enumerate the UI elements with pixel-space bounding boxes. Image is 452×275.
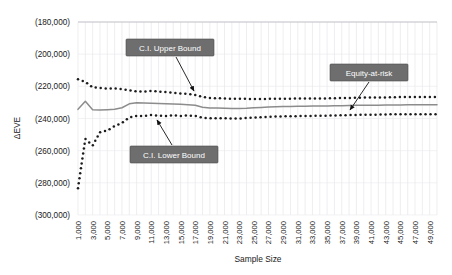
series-dot (314, 115, 317, 118)
y-axis-title: ΔEVE (12, 116, 22, 139)
x-tick-label: 21,000 (221, 221, 230, 244)
series-dot (349, 97, 352, 100)
series-dot (324, 97, 327, 100)
series-dot (204, 96, 207, 99)
series-dot (234, 97, 237, 100)
series-dot (254, 98, 256, 101)
series-dot (79, 172, 82, 175)
series-dot (249, 98, 252, 101)
series-dot (108, 128, 111, 131)
series-dot (334, 114, 337, 117)
x-tick-label: 13,000 (162, 221, 171, 244)
x-tick-label: 23,000 (235, 221, 244, 244)
series-dot (174, 92, 177, 95)
x-tick-label: 1,000 (74, 221, 83, 240)
series-dot (239, 97, 242, 100)
series-dot (114, 87, 117, 90)
series-dot (104, 87, 107, 90)
series-dot (384, 96, 387, 99)
series-dot (364, 96, 367, 99)
series-dot (80, 167, 83, 170)
series-dot (164, 91, 167, 94)
series-dot (304, 97, 307, 100)
series-dot (78, 177, 81, 180)
series-dot (90, 85, 93, 88)
series-dot (284, 97, 287, 100)
series-dot (339, 114, 342, 117)
x-tick-label: 29,000 (279, 221, 288, 244)
leader-line-lower (157, 120, 172, 145)
series-dot (88, 141, 91, 144)
y-tick-label: (280,000) (35, 179, 70, 188)
series-dot (389, 113, 392, 116)
series-dot (175, 114, 178, 117)
chart-figure: (180,000)(200,000)(220,000)(240,000)(260… (0, 0, 452, 275)
annotation-callouts: C.I. Upper Bound Equity-at-risk C.I. Low… (126, 39, 408, 163)
series-dot (130, 116, 133, 119)
leader-line-upper (176, 57, 194, 91)
series-dot (344, 97, 347, 100)
series-dot (99, 131, 102, 134)
series-dot (199, 116, 202, 119)
series-dot (190, 114, 193, 117)
series-dot (160, 115, 163, 118)
series-dot (81, 157, 84, 160)
series-dot (259, 98, 262, 101)
x-axis-title: Sample Size (234, 254, 281, 264)
series-dot (86, 82, 89, 85)
series-dot (194, 94, 197, 97)
series-dot (264, 98, 267, 101)
series-dot (414, 113, 417, 116)
series-dot (99, 87, 102, 90)
series-dot (409, 96, 412, 99)
series-dot (319, 97, 322, 100)
series-dot (374, 96, 377, 99)
series-dot (77, 78, 80, 81)
y-tick-label: (180,000) (35, 18, 70, 27)
series-dot (284, 115, 287, 118)
x-tick-label: 17,000 (191, 221, 200, 244)
series-dot (369, 113, 372, 116)
series-dot (209, 97, 212, 100)
series-c-i-upper-bound (77, 78, 436, 100)
series-dot (334, 97, 337, 100)
series-dot (329, 97, 332, 100)
x-tick-label: 45,000 (396, 221, 405, 244)
series-dot (144, 90, 147, 93)
series-dot (304, 115, 307, 118)
series-dot (384, 113, 387, 116)
series-dot (354, 97, 357, 100)
chart-canvas: (180,000)(200,000)(220,000)(240,000)(260… (0, 0, 452, 275)
series-dot (209, 117, 212, 120)
series-dot (195, 115, 198, 118)
y-tick-label: (240,000) (35, 115, 70, 124)
series-dot (429, 96, 432, 99)
series-dot (399, 96, 402, 99)
series-dot (424, 96, 427, 99)
x-tick-label: 49,000 (426, 221, 435, 244)
series-dot (219, 117, 222, 120)
series-dot (122, 121, 125, 124)
series-dot (244, 98, 247, 101)
series-dot (389, 96, 392, 99)
series-dot (165, 115, 168, 118)
series-dot (394, 96, 397, 99)
x-tick-label: 35,000 (323, 221, 332, 244)
series-dot (324, 114, 327, 117)
series-dot (83, 142, 86, 145)
series-dot (329, 114, 332, 117)
series-dot (299, 115, 302, 118)
x-tick-label: 15,000 (177, 221, 186, 244)
callout-label-upper: C.I. Upper Bound (139, 44, 201, 53)
series-dot (419, 113, 422, 116)
series-dot (124, 88, 127, 91)
series-dot (279, 115, 282, 118)
series-dot (184, 93, 187, 96)
series-equity-at-risk (78, 101, 437, 110)
series-dot (269, 116, 272, 119)
callout-ci-upper-bound: C.I. Upper Bound (126, 39, 214, 91)
series-dot (309, 97, 312, 100)
series-dot (129, 89, 132, 92)
x-tick-label: 19,000 (206, 221, 215, 244)
data-series-layer (77, 78, 437, 189)
